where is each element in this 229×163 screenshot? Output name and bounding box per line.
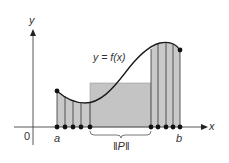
b-label: b [176,133,182,144]
y-axis-arrow-icon [30,29,36,36]
y-axis-label: y [29,15,35,26]
function-label: y = f(x) [93,52,125,63]
norm-brace [90,131,151,138]
origin-label: 0 [24,131,30,142]
curve-end-point [178,48,183,53]
x-axis-arrow-icon [201,124,208,130]
right-subinterval-fills [151,42,180,127]
largest-subinterval-rectangle [90,83,151,127]
left-subinterval-fills [57,91,90,127]
a-label: a [54,133,60,144]
curve-start-point [55,89,60,94]
norm-label: ‖P‖ [113,141,129,152]
x-axis-label: x [209,121,215,132]
